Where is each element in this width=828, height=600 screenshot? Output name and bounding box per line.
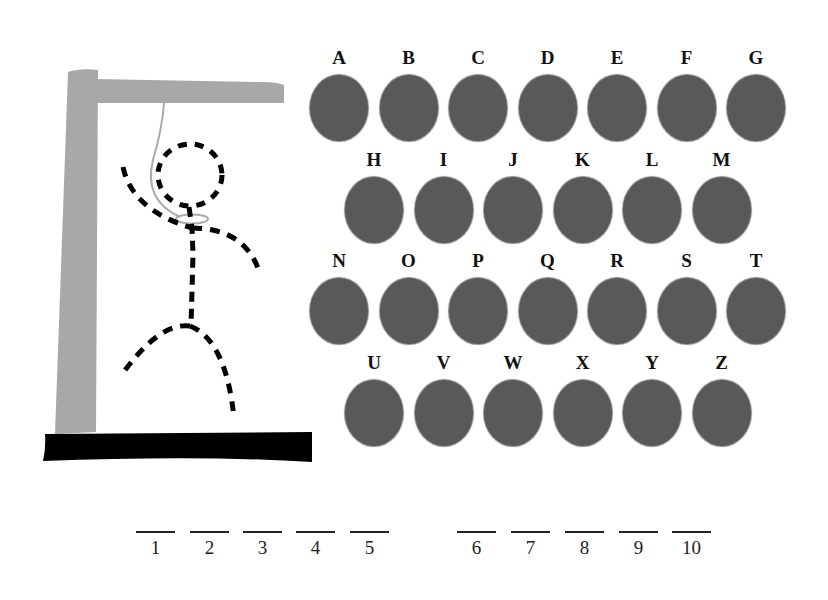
letter-key[interactable]: R [588,278,646,344]
letter-key-button[interactable] [449,278,507,344]
letter-blank: 6 [457,531,496,558]
letter-key-label: T [727,250,785,272]
figure-right-leg [190,326,234,418]
blank-underline [672,531,711,533]
letter-key[interactable]: M [693,177,751,243]
letter-key-button[interactable] [623,380,681,446]
letter-key[interactable]: Y [623,380,681,446]
blank-underline [243,531,282,533]
letter-key-button[interactable] [554,177,612,243]
letter-key[interactable]: N [310,278,368,344]
letter-key-label: V [415,352,473,374]
gallows-post [55,69,98,434]
letter-key-label: Y [623,352,681,374]
blank-underline [565,531,604,533]
letter-key-label: G [727,47,785,69]
letter-blank: 7 [511,531,550,558]
letter-blank: 9 [619,531,658,558]
letter-key-button[interactable] [588,278,646,344]
letter-key[interactable]: W [484,380,542,446]
letter-key-button[interactable] [310,75,368,141]
letter-key[interactable]: C [449,75,507,141]
letter-key[interactable]: X [554,380,612,446]
letter-key-button[interactable] [554,380,612,446]
letter-blank: 4 [296,531,335,558]
letter-key-button[interactable] [310,278,368,344]
blank-underline [619,531,658,533]
figure-left-leg [123,326,190,373]
blank-underline [190,531,229,533]
letter-key-label: K [554,149,612,171]
blank-underline [511,531,550,533]
blank-number: 2 [190,538,229,558]
letter-key-label: B [380,47,438,69]
letter-key[interactable]: K [554,177,612,243]
gallows-drawing [0,0,330,480]
letter-key-label: O [380,250,438,272]
blank-number: 4 [296,538,335,558]
letter-key-button[interactable] [345,380,403,446]
letter-key[interactable]: G [727,75,785,141]
letter-key-label: C [449,47,507,69]
letter-blank: 3 [243,531,282,558]
letter-key[interactable]: I [415,177,473,243]
letter-key-button[interactable] [693,380,751,446]
letter-key-label: I [415,149,473,171]
letter-key[interactable]: Q [519,278,577,344]
letter-key-button[interactable] [588,75,646,141]
blank-number: 1 [136,538,175,558]
letter-key-button[interactable] [380,278,438,344]
gallows-base [43,432,312,462]
blank-number: 5 [350,538,389,558]
letter-key[interactable]: S [658,278,716,344]
letter-key[interactable]: O [380,278,438,344]
letter-key-label: M [693,149,751,171]
blank-underline [457,531,496,533]
letter-key-button[interactable] [727,278,785,344]
blank-number: 3 [243,538,282,558]
letter-key[interactable]: P [449,278,507,344]
letter-key[interactable]: A [310,75,368,141]
letter-key-button[interactable] [727,75,785,141]
figure-head [158,144,222,206]
letter-key-button[interactable] [693,177,751,243]
letter-key[interactable]: E [588,75,646,141]
letter-key-label: P [449,250,507,272]
letter-key-label: U [345,352,403,374]
letter-key[interactable]: B [380,75,438,141]
letter-key-button[interactable] [484,380,542,446]
letter-key-button[interactable] [484,177,542,243]
letter-key-button[interactable] [415,380,473,446]
letter-blank: 8 [565,531,604,558]
letter-key-button[interactable] [519,75,577,141]
letter-key-button[interactable] [449,75,507,141]
letter-key-label: R [588,250,646,272]
letter-key-button[interactable] [519,278,577,344]
letter-key-button[interactable] [380,75,438,141]
letter-key[interactable]: L [623,177,681,243]
rope [151,103,180,217]
letter-key-button[interactable] [345,177,403,243]
letter-key[interactable]: D [519,75,577,141]
letter-key[interactable]: Z [693,380,751,446]
letter-key[interactable]: J [484,177,542,243]
letter-key-label: H [345,149,403,171]
letter-key-label: Z [693,352,751,374]
letter-key-label: X [554,352,612,374]
letter-key-button[interactable] [658,278,716,344]
letter-key[interactable]: F [658,75,716,141]
letter-key-label: N [310,250,368,272]
blank-underline [296,531,335,533]
blank-underline [350,531,389,533]
figure-right-arm [192,228,260,274]
letter-key[interactable]: H [345,177,403,243]
letter-key-button[interactable] [623,177,681,243]
letter-blank: 1 [136,531,175,558]
letter-key-button[interactable] [658,75,716,141]
blank-number: 7 [511,538,550,558]
letter-key[interactable]: U [345,380,403,446]
letter-key[interactable]: V [415,380,473,446]
letter-key-button[interactable] [415,177,473,243]
letter-key[interactable]: T [727,278,785,344]
letter-blank: 10 [672,531,711,558]
